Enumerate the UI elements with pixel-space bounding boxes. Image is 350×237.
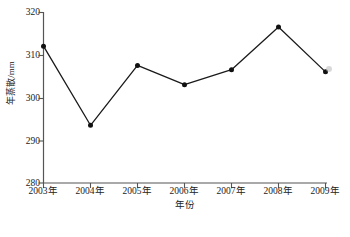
x-tick-label-2007: 2007年 — [217, 186, 246, 197]
x-tick-label-2004: 2004年 — [76, 186, 105, 197]
data-line — [44, 27, 326, 125]
data-point-2003 — [41, 44, 46, 49]
y-axis-ticks — [39, 13, 44, 184]
data-point-2006 — [182, 82, 187, 87]
x-tick-label-2009: 2009年 — [311, 186, 340, 197]
data-point-2005 — [135, 63, 140, 68]
x-axis-title: 年份 — [175, 200, 195, 211]
data-point-2008 — [276, 24, 281, 29]
x-tick-label-2006: 2006年 — [170, 186, 199, 197]
x-tick-label-2005: 2005年 — [123, 186, 152, 197]
data-markers — [41, 24, 328, 127]
line-chart: 年蒸散/mm 320 310 300 290 280 — [0, 0, 350, 237]
x-tick-label-2003: 2003年 — [29, 186, 58, 197]
data-point-2007 — [229, 67, 234, 72]
scan-artifact-dot — [326, 66, 332, 72]
x-tick-label-2008: 2008年 — [264, 186, 293, 197]
data-point-2004 — [88, 123, 93, 128]
